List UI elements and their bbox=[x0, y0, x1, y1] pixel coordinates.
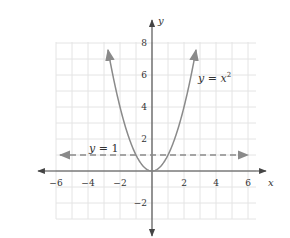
x-tick-label: 2 bbox=[181, 178, 187, 188]
x-tick-label: −6 bbox=[49, 178, 63, 188]
grid-lines bbox=[56, 42, 256, 219]
graph-figure: −6−4−2246 8642−2 x y y = x2 y = 1 bbox=[0, 0, 290, 238]
line-label: y = 1 bbox=[88, 142, 118, 155]
x-tick-label: −2 bbox=[113, 178, 126, 188]
y-tick-label: 2 bbox=[141, 134, 147, 144]
x-tick-label: 4 bbox=[213, 178, 219, 188]
y-tick-label: 4 bbox=[141, 102, 147, 112]
y-tick-label: 6 bbox=[141, 70, 147, 80]
y-tick-label: 8 bbox=[141, 38, 147, 48]
y-axis-label: y bbox=[157, 15, 164, 26]
parabola-label: y = x2 bbox=[197, 71, 231, 85]
x-tick-label: 6 bbox=[245, 178, 251, 188]
x-tick-label: −4 bbox=[81, 178, 95, 188]
x-axis-label: x bbox=[268, 177, 274, 188]
y-tick-label: −2 bbox=[134, 198, 147, 208]
